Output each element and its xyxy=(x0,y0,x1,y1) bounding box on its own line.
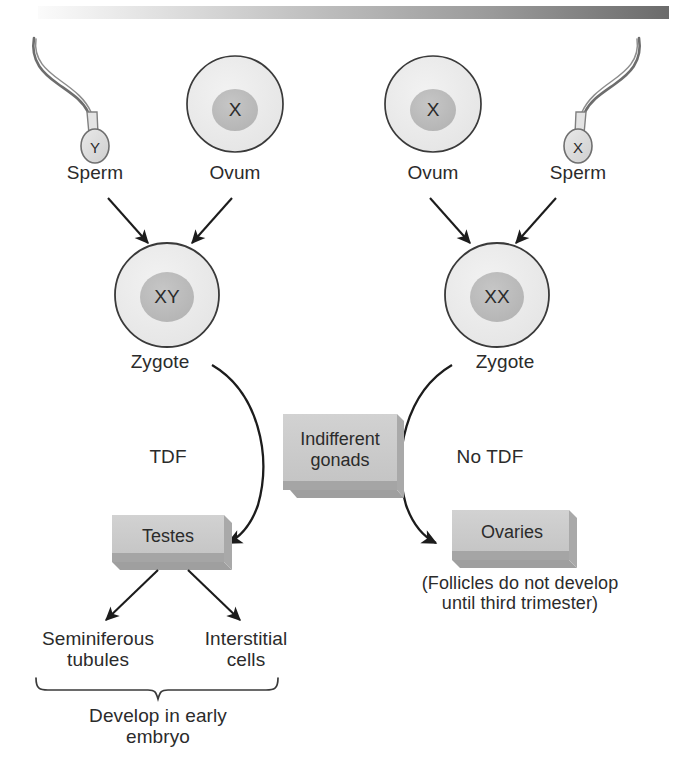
development-brace-caption: Develop in early embryo xyxy=(89,705,227,748)
sperm-y-figure xyxy=(33,38,109,163)
ovum-left-label: Ovum xyxy=(209,162,260,183)
arrow-testes-to-seminiferous-tubules xyxy=(106,570,158,620)
header-gradient-bar xyxy=(38,6,669,19)
figure-canvas: Y X X X Sperm Ovum Ovum Sperm XY XX Zygo… xyxy=(0,0,673,760)
arrow-ovum-right-to-zygote xyxy=(430,198,470,243)
arrow-zygote-xx-to-ovaries xyxy=(401,365,452,543)
testes-box xyxy=(112,515,232,570)
ovum-right-figure xyxy=(385,56,481,152)
zygote-xy-label: Zygote xyxy=(131,351,190,372)
seminiferous-tubules-label: Seminiferous tubules xyxy=(42,628,154,671)
zygote-xx-figure xyxy=(445,243,549,347)
arrow-sperm-y-to-zygote xyxy=(108,198,148,243)
development-brace xyxy=(36,678,278,699)
sperm-x-figure xyxy=(564,38,640,163)
ovum-right-label: Ovum xyxy=(407,162,458,183)
indifferent-gonads-box xyxy=(283,414,404,498)
ovum-left-figure xyxy=(187,56,283,152)
arrow-testes-to-interstitial-cells xyxy=(188,570,240,620)
sperm-x-label: Sperm xyxy=(550,162,606,183)
interstitial-cells-label: Interstitial cells xyxy=(205,628,288,671)
no-tdf-label: No TDF xyxy=(457,446,524,467)
sperm-y-label: Sperm xyxy=(67,162,123,183)
arrow-sperm-x-to-zygote xyxy=(516,198,556,243)
arrow-ovum-left-to-zygote xyxy=(192,198,232,243)
fertilization-arrows xyxy=(108,198,556,243)
ovaries-note: (Follicles do not develop until third tr… xyxy=(422,573,619,613)
zygote-xx-label: Zygote xyxy=(476,351,535,372)
zygote-xy-figure xyxy=(115,243,219,347)
ovaries-box xyxy=(452,510,577,568)
tdf-label: TDF xyxy=(149,446,186,467)
